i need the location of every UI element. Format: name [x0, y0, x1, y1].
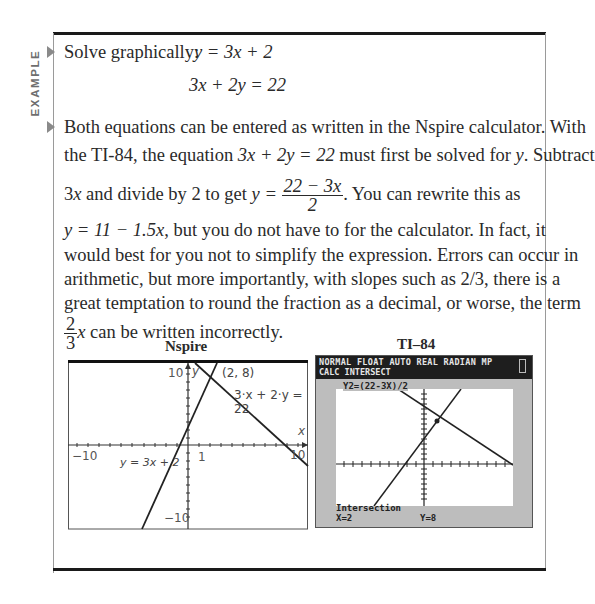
frame-left-rule	[53, 33, 54, 573]
bullet-icon	[47, 121, 55, 133]
y-min-label: −10	[164, 511, 189, 525]
x-max-label: 10	[290, 448, 305, 462]
problem-equation-1: y = 3x + 2	[194, 40, 272, 64]
example-side-label: EXAMPLE	[28, 38, 42, 128]
text-run: . You can rewrite this as	[343, 184, 520, 204]
explanation-line-3: 3x and divide by 2 to get y = 22 − 3x 2 …	[64, 170, 520, 218]
line2-label: 3·x + 2·y = 22	[234, 388, 309, 416]
ti84-result-title: Intersection	[336, 503, 401, 513]
text-run: the TI-84, the equation	[64, 145, 238, 165]
fraction-denominator: 2	[282, 196, 344, 214]
example-label-text: EXAMPLE	[29, 50, 41, 117]
ti84-plot-area	[336, 389, 513, 506]
text-run: must first be solved for	[335, 145, 516, 165]
ti84-plot-svg	[336, 389, 513, 506]
nspire-graph-svg	[68, 360, 309, 530]
ti84-equation-label: Y2=(22-3X)/2	[343, 381, 408, 391]
y-axis-label: y	[192, 364, 199, 378]
fraction-numerator: 22 − 3x	[282, 177, 344, 196]
math-lhs: y =	[252, 184, 277, 204]
intersection-point-label: (2, 8)	[222, 366, 254, 380]
frame-top-rule	[53, 32, 546, 35]
text-run: , but you do not have to for the calcula…	[164, 220, 546, 240]
ti84-status-line: NORMAL FLOAT AUTO REAL RADIAN MP	[319, 357, 492, 367]
x-axis-label: x	[298, 424, 305, 438]
math-var: y	[516, 145, 524, 165]
ti84-mode-line: CALC INTERSECT	[319, 367, 391, 377]
nspire-caption: Nspire	[165, 338, 207, 355]
math-equation: 3x + 2y = 22	[238, 145, 335, 165]
fraction: 22 − 3x 2	[282, 177, 344, 214]
math-equation: y = 11 − 1.5x	[64, 220, 164, 240]
problem-equation-2: 3x + 2y = 22	[189, 73, 286, 97]
explanation-line-5: would best for you not to simplify the e…	[64, 243, 578, 267]
ti84-screen: NORMAL FLOAT AUTO REAL RADIAN MP CALC IN…	[315, 355, 533, 528]
explanation-line-6: arithmetic, but more importantly, with s…	[64, 267, 560, 291]
line1-label: y = 3x + 2	[120, 456, 179, 469]
problem-intro: Solve graphically:	[64, 40, 199, 64]
text-run: 3	[64, 184, 73, 204]
ti84-caption: TI–84	[397, 336, 435, 353]
ti84-result-x: X=2	[336, 513, 352, 523]
fraction-numerator: 2	[64, 315, 77, 334]
fraction: 2 3	[64, 315, 77, 352]
ti84-result-y: Y=8	[420, 513, 436, 523]
explanation-line-4: y = 11 − 1.5x, but you do not have to fo…	[64, 218, 546, 242]
x-min-label: −10	[72, 449, 97, 463]
y-max-label: 10	[168, 366, 183, 380]
x-tick-1-label: 1	[198, 450, 206, 464]
nspire-graph: 10 y (2, 8) 3·x + 2·y = 22 x −10 y = 3x …	[68, 360, 309, 530]
text-run: and divide by 2 to get	[81, 184, 251, 204]
fraction-denominator: 3	[64, 334, 77, 352]
explanation-line-2: the TI-84, the equation 3x + 2y = 22 mus…	[64, 143, 595, 167]
frame-bottom-rule	[53, 568, 546, 571]
battery-icon	[519, 359, 526, 373]
text-run: . Subtract	[524, 145, 595, 165]
bullet-icon	[47, 46, 55, 58]
explanation-line-1: Both equations can be entered as written…	[64, 115, 586, 139]
